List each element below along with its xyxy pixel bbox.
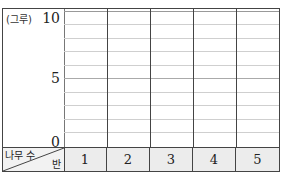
gridline [64, 51, 279, 52]
gridline [64, 11, 279, 12]
plot-area [64, 9, 279, 147]
category-row: 나무 수 반 1 2 3 4 5 [3, 148, 279, 171]
bar-graph-table: (그루) 10 5 0 나무 수 반 1 2 3 4 5 [2, 8, 280, 172]
gridline [64, 24, 279, 25]
column-divider [236, 9, 237, 147]
gridline [64, 38, 279, 39]
category-1: 1 [64, 148, 107, 171]
gridline [64, 92, 279, 93]
y-axis-column: (그루) 10 5 0 [3, 9, 65, 147]
category-2: 2 [107, 148, 150, 171]
gridline [64, 105, 279, 106]
column-divider [193, 9, 194, 147]
unit-label: (그루) [6, 11, 32, 26]
gridline [64, 132, 279, 133]
gridline [64, 65, 279, 66]
column-divider [150, 9, 151, 147]
corner-bottom-label: 반 [52, 156, 61, 171]
y-tick-10: 10 [42, 11, 60, 25]
corner-header: 나무 수 반 [3, 148, 65, 171]
corner-top-label: 나무 수 [5, 148, 35, 162]
gridline [64, 119, 279, 120]
category-4: 4 [193, 148, 236, 171]
gridline [64, 78, 279, 79]
column-divider [107, 9, 108, 147]
y-tick-5: 5 [51, 71, 60, 85]
category-5: 5 [236, 148, 279, 171]
category-3: 3 [150, 148, 193, 171]
